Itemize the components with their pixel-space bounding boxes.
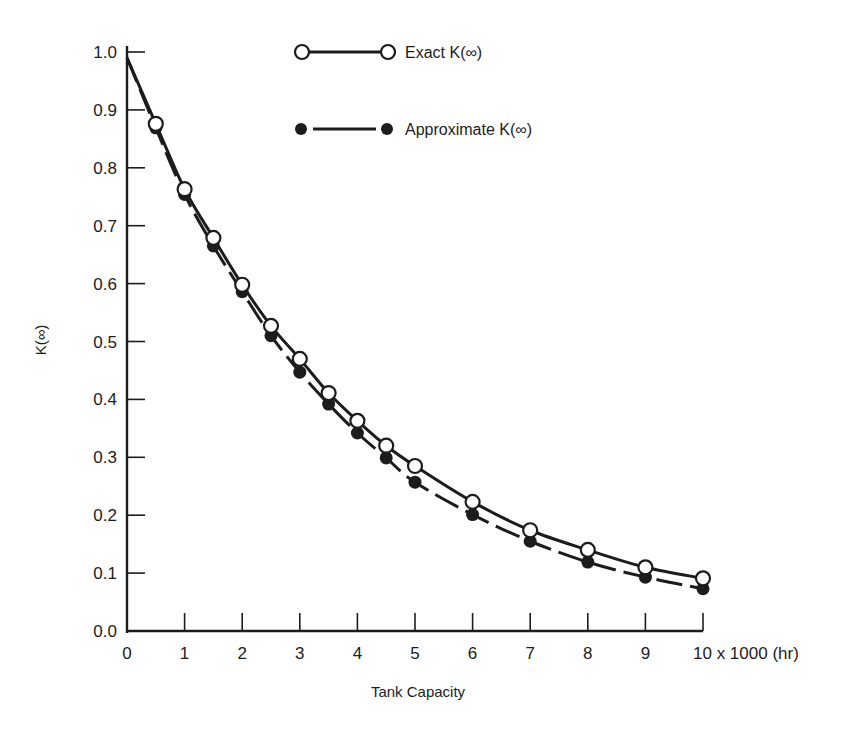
y-tick-label: 1.0	[93, 43, 117, 62]
open-circle-marker-icon	[379, 439, 393, 453]
exact-series-markers	[149, 117, 710, 586]
x-tick-label: 4	[353, 644, 362, 663]
y-tick-label: 0.1	[93, 564, 117, 583]
y-tick-label: 0.7	[93, 217, 117, 236]
x-tick-label: 10 x 1000 (hr)	[693, 644, 799, 663]
open-circle-marker-icon	[581, 543, 595, 557]
open-circle-marker-icon	[350, 414, 364, 428]
open-circle-marker-icon	[408, 459, 422, 473]
open-circle-marker-icon	[523, 523, 537, 537]
filled-circle-marker-icon	[466, 508, 479, 521]
open-circle-marker-icon	[638, 560, 652, 574]
x-axis-ticks: 012345678910 x 1000 (hr)	[122, 613, 799, 663]
x-tick-label: 0	[122, 644, 131, 663]
legend-item-exact: Exact K(∞)	[295, 44, 482, 61]
y-tick-label: 0.0	[93, 622, 117, 641]
open-circle-marker-icon	[466, 495, 480, 509]
x-tick-label: 5	[410, 644, 419, 663]
approximate-series-markers	[149, 121, 709, 595]
x-tick-label: 2	[237, 644, 246, 663]
open-circle-marker-icon	[264, 319, 278, 333]
y-tick-label: 0.3	[93, 448, 117, 467]
open-circle-marker-icon	[322, 386, 336, 400]
open-circle-marker-icon	[696, 571, 710, 585]
legend-label-approximate: Approximate K(∞)	[405, 121, 532, 138]
x-tick-label: 8	[583, 644, 592, 663]
open-circle-marker-icon	[178, 182, 192, 196]
y-axis-ticks: 0.00.10.20.30.40.50.60.70.80.91.0	[93, 43, 145, 641]
y-tick-label: 0.9	[93, 101, 117, 120]
series-layer	[127, 58, 710, 595]
x-tick-label: 6	[468, 644, 477, 663]
legend-label-exact: Exact K(∞)	[405, 44, 482, 61]
x-axis-title: Tank Capacity	[371, 683, 466, 700]
open-circle-marker-icon	[381, 45, 395, 59]
y-tick-label: 0.4	[93, 390, 117, 409]
open-circle-marker-icon	[293, 352, 307, 366]
y-axis-title: K(∞)	[32, 325, 49, 356]
filled-circle-marker-icon	[295, 123, 307, 135]
legend-item-approximate: Approximate K(∞)	[295, 121, 532, 138]
filled-circle-marker-icon	[381, 123, 393, 135]
x-tick-label: 3	[295, 644, 304, 663]
open-circle-marker-icon	[295, 45, 309, 59]
x-tick-label: 7	[525, 644, 534, 663]
open-circle-marker-icon	[235, 278, 249, 292]
y-tick-label: 0.2	[93, 506, 117, 525]
chart-container: 0.00.10.20.30.40.50.60.70.80.91.0 012345…	[0, 0, 860, 729]
x-tick-label: 1	[180, 644, 189, 663]
legend: Exact K(∞) Approximate K(∞)	[295, 44, 532, 138]
line-chart: 0.00.10.20.30.40.50.60.70.80.91.0 012345…	[0, 0, 860, 729]
open-circle-marker-icon	[206, 231, 220, 245]
filled-circle-marker-icon	[409, 476, 422, 489]
open-circle-marker-icon	[149, 117, 163, 131]
y-tick-label: 0.6	[93, 275, 117, 294]
y-tick-label: 0.8	[93, 159, 117, 178]
x-tick-label: 9	[641, 644, 650, 663]
filled-circle-marker-icon	[293, 366, 306, 379]
y-tick-label: 0.5	[93, 333, 117, 352]
